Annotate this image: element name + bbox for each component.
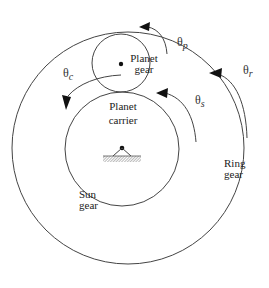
theta-c-label: θc — [63, 66, 73, 82]
planet-gear-label-line2: gear — [124, 64, 164, 75]
planet-carrier-label-line1: Planet — [101, 101, 145, 112]
ground-support-icon — [103, 146, 141, 162]
theta-s-label: θs — [195, 93, 205, 109]
planet-gear-center-dot — [119, 62, 123, 66]
theta-r-label: θr — [243, 63, 253, 79]
ring-gear-label-line2: gear — [224, 169, 254, 180]
sun-gear-label-line2: gear — [79, 200, 107, 211]
planet-carrier-label: Planet carrier — [101, 101, 145, 126]
theta-p-arrow-icon — [139, 22, 167, 54]
theta-r-arrow-icon — [209, 68, 247, 138]
planetary-gear-diagram — [0, 0, 269, 288]
ring-gear-label: Ring gear — [224, 158, 254, 180]
theta-p-label: θp — [177, 35, 188, 51]
planet-carrier-label-line2: carrier — [101, 115, 145, 126]
theta-s-arrow-icon — [156, 88, 196, 142]
planet-gear-label: Planet gear — [124, 53, 164, 75]
sun-gear-label: Sun gear — [79, 189, 107, 211]
